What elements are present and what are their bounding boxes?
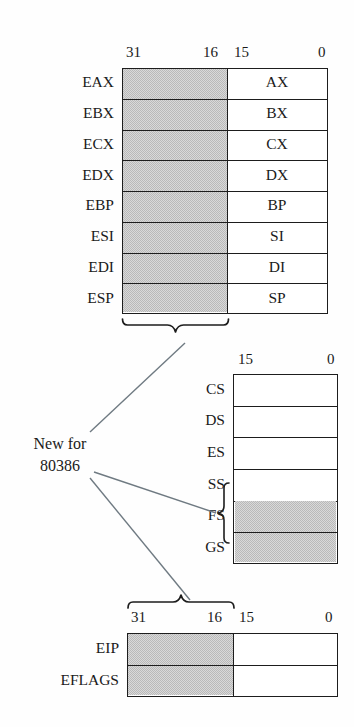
subregister-label-bp: BP <box>226 197 328 213</box>
register-label-eip: EIP <box>9 640 119 656</box>
subregister-label-dx: DX <box>226 167 328 183</box>
gp-bit-label-31: 31 <box>126 45 141 60</box>
register-label-es: ES <box>115 444 225 460</box>
register-label-edx: EDX <box>4 167 114 183</box>
register-label-ecx: ECX <box>4 136 114 152</box>
register-label-ebx: EBX <box>4 105 114 121</box>
ip-bit-label-0: 0 <box>325 610 333 625</box>
register-label-eflags: EFLAGS <box>9 672 119 688</box>
row-separator <box>122 130 328 131</box>
register-label-esi: ESI <box>4 228 114 244</box>
row-shading <box>235 501 337 532</box>
row-separator <box>233 437 338 438</box>
row-separator <box>122 283 328 284</box>
register-diagram: 31 16 15 0 EAXAXEBXBXECXCXEDXDXEBPBPESIS… <box>0 0 354 727</box>
ip-bit-label-15: 15 <box>239 610 254 625</box>
row-separator <box>127 665 338 666</box>
gp-bit-label-16: 16 <box>203 45 218 60</box>
gp-bit-label-0: 0 <box>318 45 326 60</box>
row-separator <box>122 160 328 161</box>
register-label-cs: CS <box>115 381 225 397</box>
register-label-eax: EAX <box>4 74 114 90</box>
gp-bit-label-15: 15 <box>234 45 249 60</box>
row-separator <box>122 253 328 254</box>
subregister-label-ax: AX <box>226 74 328 90</box>
seg-bit-label-0: 0 <box>327 352 335 367</box>
ip-bit-label-31: 31 <box>131 610 146 625</box>
gp-high-word-brace <box>123 319 229 332</box>
seg-bit-label-15: 15 <box>238 352 253 367</box>
ip-bit-label-16: 16 <box>207 610 222 625</box>
row-shading <box>235 533 337 562</box>
annotation-line-1: New for <box>0 434 120 454</box>
annotation-line-2: 80386 <box>0 456 120 476</box>
row-separator <box>122 191 328 192</box>
subregister-label-bx: BX <box>226 105 328 121</box>
register-label-fs: FS <box>115 507 225 523</box>
row-separator <box>122 99 328 100</box>
row-separator <box>122 222 328 223</box>
subregister-label-sp: SP <box>226 290 328 306</box>
subregister-label-cx: CX <box>226 136 328 152</box>
subregister-label-si: SI <box>226 228 328 244</box>
register-label-ss: SS <box>115 476 225 492</box>
register-label-esp: ESP <box>4 290 114 306</box>
row-separator <box>233 469 338 470</box>
register-label-gs: GS <box>115 539 225 555</box>
row-separator <box>233 406 338 407</box>
register-label-edi: EDI <box>4 259 114 275</box>
ip-high-word-brace <box>128 595 234 608</box>
register-label-ds: DS <box>115 412 225 428</box>
subregister-label-di: DI <box>226 259 328 275</box>
register-label-ebp: EBP <box>4 197 114 213</box>
